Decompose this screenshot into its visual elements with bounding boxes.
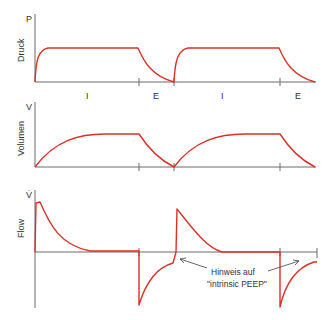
ventilation-waveform-diagram: P Druck I E I E V Volumen V̇ Flow Hinwei… <box>0 0 328 320</box>
pressure-axis-label: Druck <box>16 38 26 62</box>
flow-axis-symbol: V̇ <box>26 190 32 200</box>
pressure-curve <box>35 48 315 82</box>
phase-label-inspiration: I <box>221 91 224 101</box>
pressure-axis-symbol: P <box>26 14 32 24</box>
volume-panel: V Volumen <box>16 102 316 171</box>
phase-label-inspiration: I <box>86 91 89 101</box>
volume-curve <box>35 134 315 167</box>
phase-label-expiration: E <box>295 91 301 101</box>
annotation-arrow-left <box>180 259 207 268</box>
annotation-line-2: "intrinsic PEEP" <box>207 279 267 289</box>
flow-panel: V̇ Flow <box>16 190 317 308</box>
pressure-panel: P Druck I E I E <box>16 14 316 101</box>
annotation-line-1: Hinweis auf <box>211 267 256 277</box>
annotation-arrow-right <box>268 261 299 271</box>
volume-axis-symbol: V <box>26 102 32 112</box>
intrinsic-peep-annotation: Hinweis auf "intrinsic PEEP" <box>180 258 299 289</box>
flow-curve <box>35 202 317 307</box>
volume-axis-label: Volumen <box>16 121 26 156</box>
phase-label-expiration: E <box>153 91 159 101</box>
flow-axis-label: Flow <box>16 218 26 238</box>
